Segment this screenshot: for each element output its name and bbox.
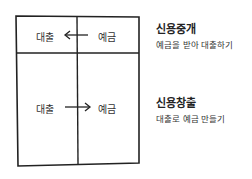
top-right-label: 예금 (98, 29, 116, 44)
credit-creation-title: 신용창출 (156, 94, 196, 110)
bottom-left-label: 대출 (36, 101, 54, 116)
credit-intermediation-description: 예금을 받아 대출하기 (156, 38, 233, 50)
credit-creation-description: 대출로 예금 만들기 (156, 112, 225, 124)
top-left-label: 대출 (36, 29, 54, 44)
bottom-right-label: 예금 (98, 101, 116, 116)
t-account-diagram (0, 0, 252, 179)
credit-intermediation-title: 신용중개 (156, 20, 196, 36)
column-divider (77, 17, 78, 164)
